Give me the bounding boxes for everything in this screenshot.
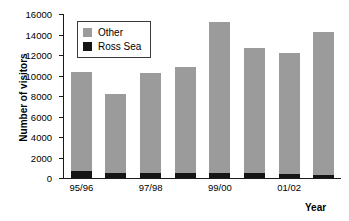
x-axis-title: Year bbox=[305, 202, 326, 213]
legend-label-ross-sea: Ross Sea bbox=[98, 41, 141, 52]
bar-segment-other bbox=[175, 67, 196, 173]
bar-stack-column bbox=[175, 14, 196, 178]
legend-label-other: Other bbox=[98, 27, 123, 38]
x-axis-tick-label: 01/02 bbox=[277, 182, 301, 193]
bar-segment-ross-sea bbox=[175, 173, 196, 178]
legend-item-ross-sea: Ross Sea bbox=[83, 39, 141, 53]
legend-item-other: Other bbox=[83, 25, 141, 39]
y-axis-tick: 10000 bbox=[59, 76, 63, 77]
y-axis-tick: 6000 bbox=[59, 117, 63, 118]
y-axis-tick-label: 6000 bbox=[31, 111, 52, 122]
y-axis-tick: 0 bbox=[59, 178, 63, 179]
bar-segment-ross-sea bbox=[313, 175, 334, 178]
bar-chart: Number of visitors 160001400012000100008… bbox=[0, 0, 349, 221]
bar-segment-other bbox=[71, 72, 92, 170]
y-axis-title: Number of visitors bbox=[18, 23, 29, 173]
bar-segment-other bbox=[209, 22, 230, 173]
bar-segment-other bbox=[313, 32, 334, 174]
bar-segment-ross-sea bbox=[209, 173, 230, 178]
x-axis-tick-label: 97/98 bbox=[139, 182, 163, 193]
y-axis-tick-label: 16000 bbox=[26, 9, 52, 20]
y-axis-tick: 16000 bbox=[59, 14, 63, 15]
bar-segment-other bbox=[244, 48, 265, 174]
bar-segment-other bbox=[105, 94, 126, 173]
bar-segment-ross-sea bbox=[244, 173, 265, 178]
chart-legend: Other Ross Sea bbox=[77, 21, 151, 58]
legend-swatch-ross-sea-icon bbox=[83, 42, 92, 51]
bar-stack-column bbox=[313, 14, 334, 178]
bar-stack-column bbox=[209, 14, 230, 178]
y-axis-tick-label: 10000 bbox=[26, 70, 52, 81]
y-axis-tick-label: 14000 bbox=[26, 29, 52, 40]
legend-swatch-other-icon bbox=[83, 28, 92, 37]
y-axis-tick-label: 2000 bbox=[31, 152, 52, 163]
x-axis-tick-label: 99/00 bbox=[208, 182, 232, 193]
bar-segment-other bbox=[279, 53, 300, 174]
bar-stack-column bbox=[244, 14, 265, 178]
y-axis-tick: 4000 bbox=[59, 137, 63, 138]
bar-segment-ross-sea bbox=[105, 173, 126, 178]
bar-segment-ross-sea bbox=[140, 173, 161, 178]
y-axis-tick-label: 4000 bbox=[31, 132, 52, 143]
y-axis-tick-label: 8000 bbox=[31, 91, 52, 102]
bar-segment-other bbox=[140, 73, 161, 173]
x-axis-line bbox=[63, 178, 341, 179]
bar-segment-ross-sea bbox=[279, 174, 300, 178]
bar-segment-ross-sea bbox=[71, 171, 92, 178]
y-axis-tick: 12000 bbox=[59, 55, 63, 56]
y-axis-tick-label: 0 bbox=[47, 173, 52, 184]
y-axis-tick: 14000 bbox=[59, 35, 63, 36]
x-axis-tick-label: 95/96 bbox=[69, 182, 93, 193]
y-axis-tick-label: 12000 bbox=[26, 50, 52, 61]
bar-stack-column bbox=[279, 14, 300, 178]
y-axis-tick: 8000 bbox=[59, 96, 63, 97]
y-axis-tick: 2000 bbox=[59, 158, 63, 159]
